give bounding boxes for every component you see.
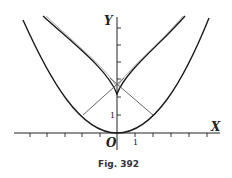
parabola-curve (23, 18, 209, 133)
y-axis-ticks (117, 28, 121, 115)
normal-lines (83, 78, 153, 115)
evolute-curve-shadow (46, 16, 183, 88)
x-tick-label-1: 1 (133, 138, 138, 147)
origin-label: O (106, 136, 117, 150)
figure-392: Y X O 1 1 Fig. 392 (0, 0, 232, 178)
y-tick-label-1: 1 (110, 111, 115, 120)
figure-caption: Fig. 392 (98, 159, 139, 169)
x-axis-label: X (210, 120, 221, 134)
y-axis-label: Y (104, 14, 114, 28)
